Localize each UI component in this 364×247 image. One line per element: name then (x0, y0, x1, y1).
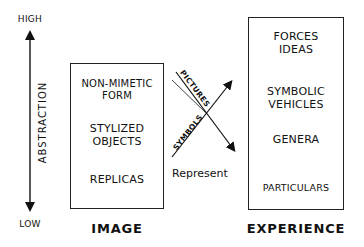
experience-box: FORCES IDEAS SYMBOLIC VEHICLES GENERA PA… (248, 17, 344, 210)
arrow-up-icon (25, 30, 35, 40)
image-item-stylized-objects: STYLIZED OBJECTS (71, 122, 163, 148)
image-item-non-mimetic-form: NON-MIMETIC FORM (71, 78, 163, 102)
low-label: LOW (14, 219, 46, 229)
high-label: HIGH (14, 14, 46, 24)
experience-item-genera: GENERA (249, 134, 343, 146)
experience-item-symbolic-vehicles: SYMBOLIC VEHICLES (249, 85, 343, 111)
image-item-replicas: REPLICAS (71, 174, 163, 186)
arrow-down-icon (25, 202, 35, 212)
experience-item-particulars: PARTICULARS (249, 182, 343, 194)
image-box: NON-MIMETIC FORM STYLIZED OBJECTS REPLIC… (70, 63, 164, 209)
experience-item-forces-ideas: FORCES IDEAS (249, 30, 343, 56)
image-title: IMAGE (70, 221, 164, 236)
abstraction-axis (25, 30, 35, 212)
experience-title: EXPERIENCE (232, 221, 360, 236)
represent-label: Represent (172, 167, 228, 180)
abstraction-label: ABSTRACTION (37, 73, 48, 173)
